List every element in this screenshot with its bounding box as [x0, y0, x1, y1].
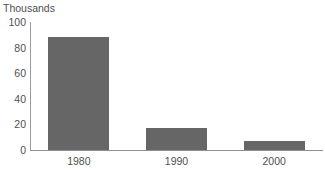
plot-area: 020406080100 198019902000: [30, 22, 323, 150]
x-axis-tick-label: 1990: [165, 155, 188, 167]
y-axis-tick-label: 60: [14, 68, 26, 78]
x-axis-tick-label: 2000: [262, 155, 285, 167]
y-axis-tick-label: 40: [14, 94, 26, 104]
bar-chart-figure: Thousands 020406080100 198019902000: [0, 0, 325, 170]
x-axis-line: [30, 150, 323, 151]
bar: [146, 128, 207, 150]
y-axis-tick-label: 80: [14, 43, 26, 53]
chart-axis-unit-title: Thousands: [3, 2, 55, 14]
y-axis-tick-label: 100: [8, 17, 26, 27]
y-axis-line: [30, 22, 31, 150]
bar: [48, 37, 109, 150]
y-axis-tick-label: 20: [14, 119, 26, 129]
bar: [244, 141, 305, 150]
x-axis-tick-label: 1980: [67, 155, 90, 167]
y-axis-tick-label: 0: [20, 145, 26, 155]
